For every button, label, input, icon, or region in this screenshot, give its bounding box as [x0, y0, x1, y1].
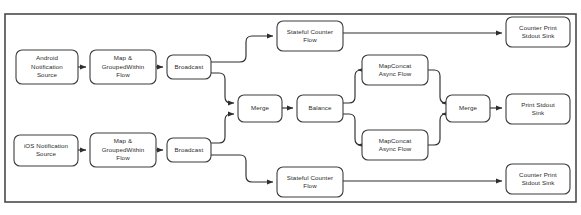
node-layer: AndroidNotificationSourceMap &GroupedWit… — [14, 17, 570, 197]
counter-print-stdout-sink-top-label-line-0: Counter Print — [519, 24, 557, 31]
counter-print-stdout-sink-bottom[interactable]: Counter PrintStdout Sink — [506, 164, 570, 194]
counter-print-stdout-sink-bottom-label-line-1: Stdout Sink — [522, 179, 556, 186]
stateful-counter-flow-top[interactable]: Stateful CounterFlow — [277, 21, 343, 51]
edge-balance-to-mapconcat-bottom — [343, 114, 361, 145]
balance[interactable]: Balance — [297, 95, 343, 122]
print-stdout-sink-label-line-0: Print Stdout — [521, 101, 555, 108]
edge-balance-to-mapconcat-top — [343, 70, 361, 103]
android-notification-source-label-line-2: Source — [37, 71, 58, 78]
merge-left[interactable]: Merge — [238, 95, 282, 122]
merge-left-label-line-0: Merge — [251, 104, 269, 111]
stateful-counter-flow-bottom[interactable]: Stateful CounterFlow — [277, 167, 343, 197]
broadcast-ios[interactable]: Broadcast — [167, 138, 211, 162]
ios-notification-source-label-line-1: Source — [36, 150, 57, 157]
edge-broadcast-android-to-stateful-top — [211, 36, 273, 62]
merge-right[interactable]: Merge — [446, 95, 490, 122]
map-groupedwithin-flow-android[interactable]: Map &GroupedWithinFlow — [90, 50, 156, 84]
counter-print-stdout-sink-top[interactable]: Counter PrintStdout Sink — [506, 17, 570, 47]
mapconcat-async-flow-top-label-line-1: Async Flow — [379, 70, 412, 77]
map-groupedwithin-flow-ios-label-line-2: Flow — [116, 154, 130, 161]
map-groupedwithin-flow-ios-label-line-1: GroupedWithin — [102, 146, 145, 153]
stateful-counter-flow-bottom-label-line-0: Stateful Counter — [287, 174, 333, 181]
stateful-counter-flow-top-label-line-0: Stateful Counter — [287, 28, 333, 35]
broadcast-android-label-line-0: Broadcast — [175, 63, 204, 70]
mapconcat-async-flow-bottom[interactable]: MapConcatAsync Flow — [362, 130, 428, 160]
ios-notification-source-label-line-0: iOS Notification — [24, 142, 69, 149]
map-groupedwithin-flow-android-label-line-2: Flow — [116, 71, 130, 78]
print-stdout-sink-label-line-1: Sink — [532, 109, 545, 116]
diagram-canvas: AndroidNotificationSourceMap &GroupedWit… — [0, 0, 581, 215]
android-notification-source-label-line-1: Notification — [31, 63, 63, 70]
mapconcat-async-flow-bottom-label-line-0: MapConcat — [379, 137, 412, 144]
map-groupedwithin-flow-android-label-line-1: GroupedWithin — [102, 63, 145, 70]
map-groupedwithin-flow-ios[interactable]: Map &GroupedWithinFlow — [90, 133, 156, 167]
stateful-counter-flow-top-label-line-1: Flow — [303, 36, 317, 43]
broadcast-android[interactable]: Broadcast — [167, 55, 211, 79]
mapconcat-async-flow-top[interactable]: MapConcatAsync Flow — [362, 55, 428, 85]
counter-print-stdout-sink-bottom-label-line-0: Counter Print — [519, 171, 557, 178]
print-stdout-sink[interactable]: Print StdoutSink — [506, 94, 570, 124]
edge-mapconcat-top-to-merge-right — [428, 70, 446, 103]
counter-print-stdout-sink-top-label-line-1: Stdout Sink — [522, 32, 556, 39]
edge-broadcast-android-to-merge-left — [211, 73, 234, 103]
stateful-counter-flow-bottom-label-line-1: Flow — [303, 182, 317, 189]
map-groupedwithin-flow-ios-label-line-0: Map & — [114, 137, 133, 144]
android-notification-source-label-line-0: Android — [36, 54, 58, 61]
broadcast-ios-label-line-0: Broadcast — [175, 146, 204, 153]
merge-right-label-line-0: Merge — [459, 104, 477, 111]
ios-notification-source[interactable]: iOS NotificationSource — [14, 135, 78, 166]
mapconcat-async-flow-bottom-label-line-1: Async Flow — [379, 145, 412, 152]
edge-broadcast-ios-to-stateful-bottom — [211, 155, 273, 182]
edge-broadcast-ios-to-merge-left — [211, 114, 234, 143]
android-notification-source[interactable]: AndroidNotificationSource — [16, 50, 78, 84]
flow-diagram: AndroidNotificationSourceMap &GroupedWit… — [0, 0, 581, 215]
map-groupedwithin-flow-android-label-line-0: Map & — [114, 54, 133, 61]
balance-label-line-0: Balance — [308, 104, 332, 111]
edge-mapconcat-bottom-to-merge-right — [428, 114, 446, 145]
mapconcat-async-flow-top-label-line-0: MapConcat — [379, 62, 412, 69]
